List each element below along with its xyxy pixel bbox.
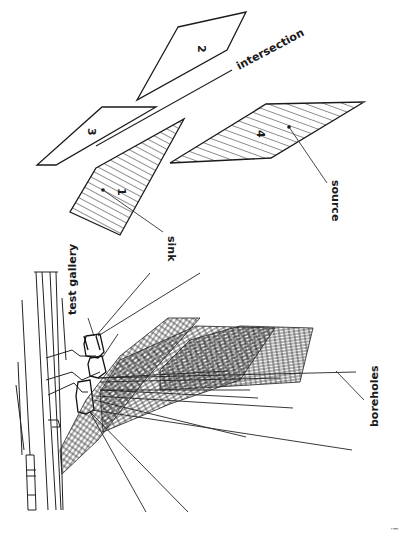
plane-2: 2 xyxy=(137,12,246,100)
tunnel-structure xyxy=(16,272,100,510)
boreholes-label: boreholes xyxy=(368,365,381,427)
plane-2-label: 2 xyxy=(195,45,208,53)
boreholes-leader xyxy=(336,371,364,400)
plane-4-label: 4 xyxy=(254,130,267,138)
margin-mark: i xyxy=(391,528,400,530)
intersection-label: intersection xyxy=(234,26,306,73)
sink-label: sink xyxy=(165,236,178,262)
source-label: source xyxy=(329,180,342,221)
fracture-network-diagram: 2 intersection 3 1 sink 4 source test ga… xyxy=(0,0,402,537)
test-gallery-leader xyxy=(88,318,94,336)
plane-1-label: 1 xyxy=(115,188,128,196)
plane-3-label: 3 xyxy=(85,128,98,136)
plane-4: 4 source xyxy=(170,102,364,221)
test-gallery-label: test gallery xyxy=(66,244,79,315)
